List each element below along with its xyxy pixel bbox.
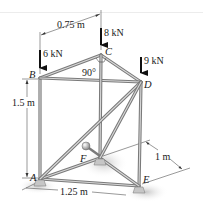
ball-joint-f [82, 142, 90, 150]
space-truss-diagram: 0.75 m 6 kN 8 kN 9 kN 90° 1.5 m 1.25 m 1… [0, 0, 203, 210]
dim-line-125b [92, 192, 126, 195]
member-highlight-cd [101, 55, 141, 82]
load-label-c: 8 kN [104, 27, 124, 38]
joint-label-e: E [142, 174, 150, 185]
dim-label-125: 1.25 m [60, 186, 88, 197]
load-label-b: 6 kN [43, 48, 63, 59]
angle-label: 90° [82, 67, 96, 78]
support-e [133, 187, 145, 193]
member-highlight-fd [100, 82, 141, 158]
joint-label-c: C [105, 46, 113, 57]
load-label-d: 9 kN [144, 55, 164, 66]
joint-label-d: D [143, 79, 152, 90]
joint-label-a: A [29, 172, 37, 183]
joint-label-b: B [29, 69, 36, 80]
dim-label-15: 1.5 m [12, 97, 35, 108]
joint-label-f: F [79, 153, 87, 164]
support-f [94, 159, 106, 165]
dim-label-075: 0.75 m [57, 19, 85, 30]
dim-label-1: 1 m [155, 151, 171, 162]
